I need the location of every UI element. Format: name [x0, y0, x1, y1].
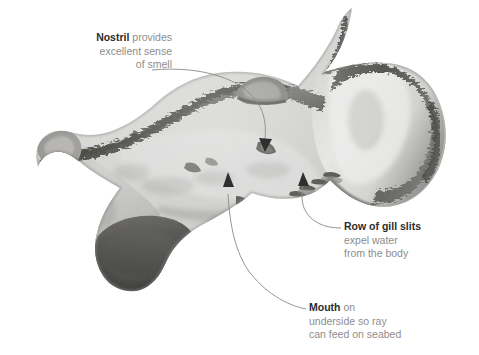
callout-mouth: Mouth on underside so ray can feed on se… — [309, 301, 401, 342]
callout-nostril-heading: Nostril — [96, 31, 129, 43]
callout-gill-slits: Row of gill slits expel water from the b… — [344, 220, 421, 261]
callout-mouth-line1-tail: on — [341, 301, 356, 313]
callout-mouth-line2: underside so ray — [309, 315, 401, 329]
callout-mouth-heading: Mouth — [309, 301, 341, 313]
callout-mouth-line1: Mouth on — [309, 301, 401, 315]
callout-gill-line2: expel water — [344, 234, 421, 248]
ray-anatomy-figure: Nostril provides excellent sense of smel… — [0, 0, 479, 355]
callout-gill-line3: from the body — [344, 247, 421, 261]
callout-gill-heading: Row of gill slits — [344, 220, 421, 234]
callout-nostril: Nostril provides excellent sense of smel… — [0, 31, 172, 72]
callout-nostril-line1-tail: provides — [129, 31, 172, 43]
callout-nostril-line3: of smell — [0, 58, 172, 72]
callout-nostril-line2: excellent sense — [0, 45, 172, 59]
callout-mouth-line3: can feed on seabed — [309, 328, 401, 342]
callout-nostril-line1: Nostril provides — [0, 31, 172, 45]
